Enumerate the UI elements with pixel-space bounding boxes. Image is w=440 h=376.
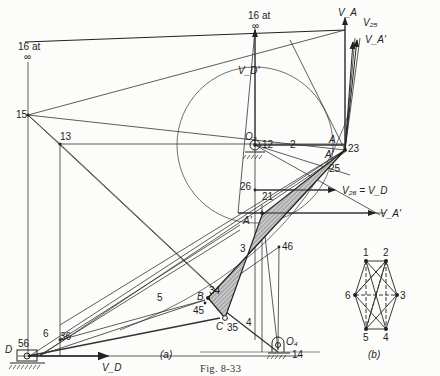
figure-8-33: 16 at ∞ 16 at ∞ 15 13 12 O₂ 2 A A' 23 25… bbox=[0, 0, 440, 376]
hex-vertex-1: 1 bbox=[363, 247, 369, 258]
label-o4: O₄ bbox=[286, 336, 298, 347]
label-a-prime-lower: A' bbox=[242, 215, 253, 226]
slider-block-d bbox=[9, 350, 45, 369]
label-link-3: 3 bbox=[240, 243, 246, 254]
mechanism-diagram: 16 at ∞ 16 at ∞ 15 13 12 O₂ 2 A A' 23 25… bbox=[0, 0, 440, 376]
hex-vertex-6: 6 bbox=[345, 290, 351, 301]
label-21: 21 bbox=[262, 191, 274, 202]
v25-arrow bbox=[345, 42, 353, 150]
label-56: 56 bbox=[18, 338, 30, 349]
label-v26-eq-vd: V₂₆ = V_D bbox=[342, 185, 387, 196]
linkage-graph-hexagon: 1 2 3 4 5 6 (b) bbox=[345, 247, 406, 360]
figure-caption: Fig. 8-33 bbox=[200, 363, 241, 374]
hex-vertex-2: 2 bbox=[383, 247, 389, 258]
label-a-prime: A' bbox=[324, 149, 335, 160]
label-14: 14 bbox=[292, 349, 304, 360]
label-va: V_A bbox=[338, 7, 357, 18]
label-13: 13 bbox=[60, 131, 72, 142]
label-o2: O₂ bbox=[245, 131, 257, 142]
label-36: 36 bbox=[60, 331, 72, 342]
instant-centers bbox=[26, 113, 347, 341]
label-a: A bbox=[328, 134, 336, 145]
label-va-prime-top: V_A' bbox=[365, 34, 387, 45]
va-prime-arrow bbox=[345, 40, 357, 150]
label-va-prime-right: V_A' bbox=[380, 208, 402, 219]
label-12: 12 bbox=[262, 139, 274, 150]
label-link-4: 4 bbox=[246, 317, 252, 328]
label-23: 23 bbox=[348, 143, 360, 154]
label-vd: V_D bbox=[102, 362, 121, 373]
label-v25: V₂₅ bbox=[363, 17, 378, 28]
label-34: 34 bbox=[209, 285, 221, 296]
label-45: 45 bbox=[193, 305, 205, 316]
hex-vertex-3: 3 bbox=[400, 290, 406, 301]
label-link-5: 5 bbox=[157, 292, 163, 303]
pole16-left-l2: ∞ bbox=[24, 51, 31, 62]
label-26: 26 bbox=[240, 181, 252, 192]
labels: 16 at ∞ 16 at ∞ 15 13 12 O₂ 2 A A' 23 25… bbox=[5, 7, 402, 373]
label-d: D bbox=[5, 344, 12, 355]
hex-vertex-4: 4 bbox=[383, 332, 389, 343]
subfigure-a-label: (a) bbox=[160, 349, 172, 360]
label-vd-prime: V_D' bbox=[238, 65, 260, 76]
label-b: B bbox=[197, 291, 204, 302]
hex-vertex-5: 5 bbox=[363, 332, 369, 343]
label-link-2: 2 bbox=[290, 139, 296, 150]
coupler-link-3 bbox=[208, 150, 345, 318]
label-35: 35 bbox=[227, 322, 239, 333]
label-46: 46 bbox=[282, 241, 294, 252]
label-25: 25 bbox=[329, 163, 341, 174]
label-15: 15 bbox=[16, 109, 28, 120]
label-link-6: 6 bbox=[43, 328, 49, 339]
subfigure-b-label: (b) bbox=[368, 349, 380, 360]
pole16-top-l2: ∞ bbox=[252, 20, 259, 31]
label-c: C bbox=[216, 321, 224, 332]
